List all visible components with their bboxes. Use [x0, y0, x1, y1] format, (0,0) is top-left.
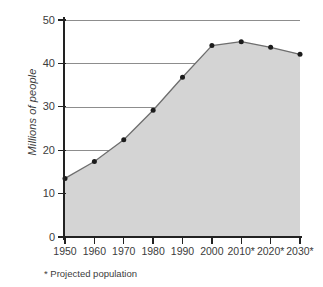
y-tick-20 — [58, 150, 66, 151]
population-area-chart: Millions of people 01020304050 195019601… — [0, 0, 323, 287]
x-tick-2020* — [270, 238, 271, 244]
x-tick-1950 — [64, 238, 65, 244]
x-tick-1980 — [152, 238, 153, 244]
area-series-graphic — [65, 20, 300, 237]
plot-area — [65, 20, 300, 237]
y-tick-50 — [58, 19, 66, 20]
x-tick-2030* — [299, 238, 300, 244]
data-point-1980 — [151, 108, 156, 113]
data-point-1960 — [92, 159, 97, 164]
x-tick-1990 — [182, 238, 183, 244]
y-tick-label-40: 40 — [15, 58, 55, 69]
data-point-2010* — [239, 39, 244, 44]
data-point-1990 — [180, 75, 185, 80]
x-tick-1960 — [94, 238, 95, 244]
data-point-1970 — [121, 137, 126, 142]
data-point-2020* — [268, 45, 273, 50]
data-point-2030* — [298, 52, 303, 57]
y-tick-label-0: 0 — [15, 232, 55, 243]
y-tick-label-20: 20 — [15, 145, 55, 156]
y-axis-line — [63, 17, 65, 240]
area-fill — [65, 42, 300, 237]
x-tick-label-2030*: 2030* — [277, 246, 323, 257]
x-tick-2000 — [211, 238, 212, 244]
y-tick-label-10: 10 — [15, 188, 55, 199]
y-tick-label-30: 30 — [15, 101, 55, 112]
y-tick-40 — [58, 63, 66, 64]
data-point-2000 — [209, 43, 214, 48]
footnote-projected-population: * Projected population — [44, 268, 137, 279]
x-tick-2010* — [241, 238, 242, 244]
y-tick-10 — [58, 193, 66, 194]
x-tick-1970 — [123, 238, 124, 244]
y-tick-30 — [58, 106, 66, 107]
y-tick-label-50: 50 — [15, 15, 55, 26]
